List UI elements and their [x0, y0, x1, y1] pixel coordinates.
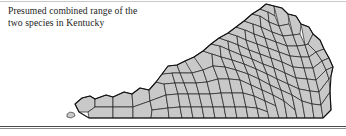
figure-container: Presumed combined range of the two speci…: [0, 0, 346, 136]
caption-line-1: Presumed combined range of the: [8, 5, 183, 17]
kentucky-bend-islet: [67, 112, 75, 118]
caption-line-2: two species in Kentucky: [8, 17, 183, 29]
figure-bottom-rule: [0, 126, 346, 127]
figure-bottom-rule-secondary: [0, 128, 346, 129]
figure-caption: Presumed combined range of the two speci…: [8, 5, 183, 28]
